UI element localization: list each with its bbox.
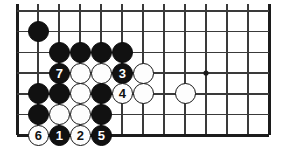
white-move-2: 2 [70, 125, 91, 146]
stone-move-number: 2 [77, 128, 84, 141]
black-move-7: 7 [49, 63, 70, 84]
black-stone [28, 104, 49, 125]
stone-move-number: 7 [56, 66, 63, 79]
black-stone [28, 21, 49, 42]
white-stone [91, 63, 112, 84]
white-stone [49, 104, 70, 125]
stone-move-number: 5 [98, 128, 105, 141]
black-stone [91, 42, 112, 63]
black-stone [49, 83, 70, 104]
white-stone [70, 63, 91, 84]
white-move-6: 6 [28, 125, 49, 146]
stone-move-number: 3 [119, 66, 126, 79]
stone-layer: 7346125 [0, 0, 289, 156]
black-move-5: 5 [91, 125, 112, 146]
black-move-1: 1 [49, 125, 70, 146]
white-stone [175, 83, 196, 104]
black-stone [91, 104, 112, 125]
white-move-4: 4 [112, 83, 133, 104]
black-stone [112, 42, 133, 63]
black-stone [91, 83, 112, 104]
black-move-3: 3 [112, 63, 133, 84]
black-stone [49, 42, 70, 63]
black-stone [28, 83, 49, 104]
white-stone [70, 104, 91, 125]
stone-move-number: 4 [119, 87, 126, 100]
go-board-diagram: 7346125 [0, 0, 289, 156]
white-stone [70, 83, 91, 104]
stone-move-number: 6 [35, 128, 42, 141]
white-stone [133, 83, 154, 104]
stone-move-number: 1 [56, 128, 63, 141]
black-stone [70, 42, 91, 63]
white-stone [133, 63, 154, 84]
